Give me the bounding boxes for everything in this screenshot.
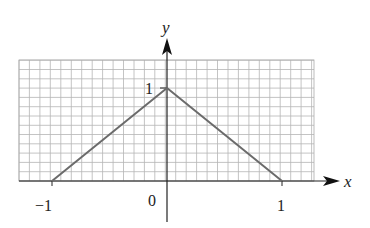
x-axis-label: x bbox=[343, 172, 352, 191]
y-tick-label-1: 1 bbox=[145, 80, 153, 97]
x-tick-label-1: 1 bbox=[277, 197, 285, 214]
chart: y x 1 0 −1 1 bbox=[0, 0, 370, 228]
x-tick-label-neg1: −1 bbox=[35, 197, 52, 214]
origin-label: 0 bbox=[148, 192, 156, 209]
y-axis-label: y bbox=[160, 18, 170, 37]
